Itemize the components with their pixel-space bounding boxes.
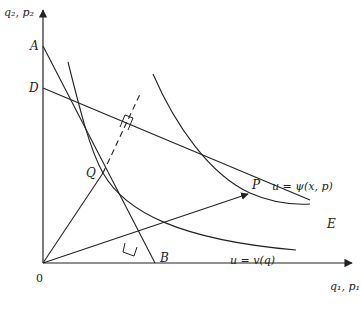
curve-direct-utility — [68, 62, 296, 250]
line-d-e — [43, 88, 310, 200]
right-angle-marker-lower — [123, 243, 137, 256]
ray-origin-q — [43, 173, 103, 263]
indirect-utility-label: u = ψ(x, p) — [272, 180, 333, 193]
dashed-normal-line — [103, 92, 141, 173]
point-b-label: B — [159, 251, 169, 265]
point-p-label: P — [251, 178, 261, 192]
x-axis-label: q₁, p₁ — [330, 280, 360, 293]
point-a-label: A — [29, 39, 39, 53]
y-axis-label: q₂, p₂ — [4, 6, 34, 19]
point-e-label: E — [326, 217, 336, 231]
point-d-label: D — [28, 81, 39, 95]
diagram-canvas: q₂, p₂ q₁, p₁ 0 A D B E Q P u = ψ(x, p) … — [0, 0, 361, 318]
direct-utility-label: u = v(q) — [230, 254, 275, 267]
vector-origin-p — [43, 194, 248, 263]
origin-label: 0 — [36, 272, 43, 285]
point-q-label: Q — [86, 166, 96, 180]
